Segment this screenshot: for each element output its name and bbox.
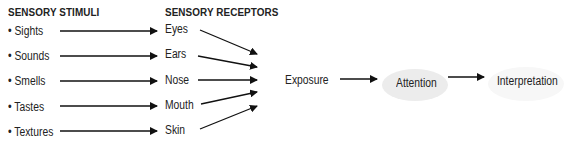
arrow-ears [198, 56, 257, 67]
arrow-eyes [200, 30, 257, 54]
arrows-layer [0, 0, 567, 145]
arrow-mouth [201, 92, 257, 104]
arrow-skin [200, 106, 257, 129]
